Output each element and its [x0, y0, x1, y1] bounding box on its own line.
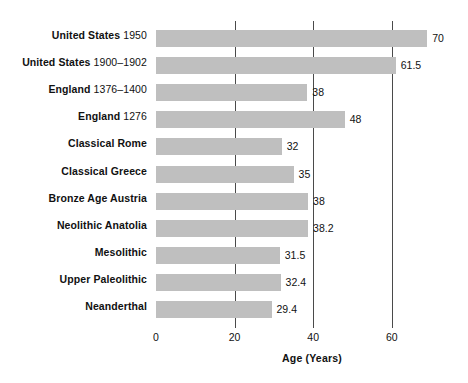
category-place: Classical Rome [68, 137, 147, 149]
bar-value-label: 38 [312, 86, 324, 99]
category-label: Upper Paleolithic [60, 273, 147, 285]
x-axis-title: Age (Years) [282, 352, 342, 364]
bar-value-label: 48 [350, 113, 362, 126]
category-label: Classical Rome [68, 137, 147, 149]
x-tick-label-0: 0 [136, 331, 176, 344]
category-label: United States1900–1902 [22, 56, 147, 68]
bar-row: England127648 [0, 107, 468, 134]
category-place: Classical Greece [61, 165, 147, 177]
bar-value-label: 61.5 [401, 59, 421, 72]
category-place: Neolithic Anatolia [57, 219, 147, 231]
category-label: England1276 [78, 110, 147, 122]
bar-value-label: 32 [287, 140, 299, 153]
category-label: Mesolithic [95, 246, 147, 258]
category-place: England [78, 110, 120, 122]
category-date: 1900–1902 [94, 56, 147, 68]
bar-row: Mesolithic31.5 [0, 243, 468, 270]
plot-area: United States195070United States1900–190… [0, 0, 468, 383]
bar-row: United States195070 [0, 26, 468, 53]
bar [156, 274, 281, 291]
bar-row: Neolithic Anatolia38.2 [0, 216, 468, 243]
category-place: Upper Paleolithic [60, 273, 147, 285]
bar [156, 57, 396, 74]
bar-row: England1376–140038 [0, 80, 468, 107]
bar-value-label: 38.2 [313, 222, 333, 235]
bar-row: Classical Greece35 [0, 162, 468, 189]
category-place: Mesolithic [95, 246, 147, 258]
category-label: Neanderthal [85, 300, 147, 312]
x-tick-label-60: 60 [372, 331, 412, 344]
x-tick-label-40: 40 [293, 331, 333, 344]
category-place: England [48, 83, 90, 95]
category-date: 1950 [123, 29, 147, 41]
bar [156, 301, 272, 318]
category-label: United States1950 [52, 29, 147, 41]
category-place: United States [52, 29, 120, 41]
bar-row: United States1900–190261.5 [0, 53, 468, 80]
bar [156, 30, 427, 47]
bar-row: Bronze Age Austria38 [0, 189, 468, 216]
bar-value-label: 70 [432, 32, 444, 45]
bar [156, 247, 280, 264]
bar [156, 220, 308, 237]
bar-value-label: 29.4 [277, 303, 297, 316]
bar [156, 166, 294, 183]
bar-value-label: 38 [313, 195, 325, 208]
bar-value-label: 35 [299, 168, 311, 181]
x-tick-label-20: 20 [215, 331, 255, 344]
category-label: England1376–1400 [48, 83, 147, 95]
bar-chart: United States195070United States1900–190… [0, 0, 468, 383]
category-place: Bronze Age Austria [49, 192, 147, 204]
bar [156, 138, 282, 155]
category-date: 1276 [123, 110, 147, 122]
bar-value-label: 32.4 [286, 276, 306, 289]
category-place: Neanderthal [85, 300, 147, 312]
category-label: Classical Greece [61, 165, 147, 177]
bar [156, 111, 345, 128]
bar-row: Classical Rome32 [0, 134, 468, 161]
category-date: 1376–1400 [94, 83, 147, 95]
category-label: Neolithic Anatolia [57, 219, 147, 231]
bar-row: Upper Paleolithic32.4 [0, 270, 468, 297]
bar-row: Neanderthal29.4 [0, 297, 468, 324]
category-place: United States [22, 56, 90, 68]
bar [156, 84, 307, 101]
category-label: Bronze Age Austria [49, 192, 147, 204]
bar-value-label: 31.5 [285, 249, 305, 262]
bar [156, 193, 308, 210]
